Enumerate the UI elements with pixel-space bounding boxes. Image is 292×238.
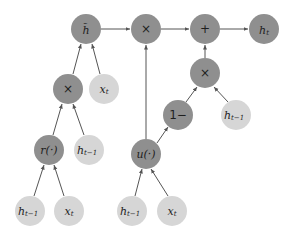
- node-h-tilde: h̃: [71, 14, 101, 44]
- svg-text:×: ×: [63, 82, 73, 96]
- node-update-gate: u(·): [131, 139, 161, 169]
- node-x-t-bottom-mid: xt: [157, 196, 187, 226]
- node-reset-gate: r(·): [34, 135, 64, 165]
- svg-text:×: ×: [200, 66, 210, 80]
- node-x-t-bottom-left: xt: [54, 196, 84, 226]
- edge-hprev-to-mul-right: [214, 87, 228, 102]
- node-h-t: ht: [249, 14, 279, 44]
- svg-text:+: +: [200, 22, 210, 36]
- node-x-t-upper: xt: [89, 74, 119, 104]
- edge-hprev-to-reset: [34, 165, 44, 196]
- node-one-minus: 1−: [163, 100, 193, 130]
- edge-mul-left-to-htilde: [73, 44, 81, 74]
- node-h-prev-right: ht−1: [221, 100, 251, 130]
- node-h-prev-bottom-left: ht−1: [15, 196, 45, 226]
- svg-text:r(·): r(·): [40, 144, 57, 157]
- node-multiply-top: ×: [131, 14, 161, 44]
- svg-text:1−: 1−: [169, 108, 187, 122]
- edge-xt-to-htilde: [92, 44, 100, 74]
- edges: [34, 29, 248, 196]
- node-h-prev-mid: ht−1: [74, 135, 104, 165]
- edge-reset-to-mul-left: [53, 104, 62, 135]
- edge-one-minus-to-mul-right: [186, 87, 197, 102]
- edge-xt-to-update: [151, 169, 168, 196]
- node-multiply-left: ×: [53, 74, 83, 104]
- node-plus: +: [190, 14, 220, 44]
- svg-text:u(·): u(·): [136, 148, 155, 161]
- node-h-prev-bottom-mid: ht−1: [117, 196, 147, 226]
- gru-diagram: h̃ × + ht × 1− ht−1 × xt r(·) ht−1: [0, 0, 292, 238]
- node-multiply-right: ×: [190, 58, 220, 88]
- svg-text:×: ×: [141, 22, 151, 36]
- edge-hprev-to-mul-left: [73, 104, 84, 135]
- svg-text:h̃: h̃: [82, 23, 89, 36]
- edge-update-to-one-minus: [157, 127, 168, 143]
- edge-xt-to-reset: [54, 165, 64, 196]
- edge-hprev-to-update: [135, 169, 142, 196]
